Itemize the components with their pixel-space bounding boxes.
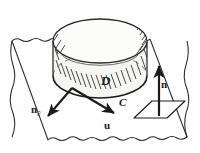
figure-container: D C n u n∂	[0, 0, 200, 153]
diagram-canvas	[0, 0, 200, 153]
boundary-curve-label-C: C	[119, 97, 126, 108]
surface-normal-label-n: n	[161, 79, 167, 90]
boundary-normal-subscript: ∂	[37, 110, 40, 117]
velocity-label-u: u	[104, 120, 110, 131]
region-label-D: D	[101, 74, 110, 87]
boundary-normal-label: n∂	[31, 104, 41, 118]
